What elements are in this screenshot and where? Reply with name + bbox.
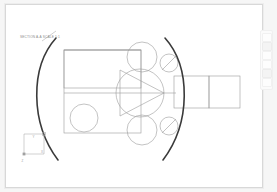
arc-group [37,38,185,160]
circle-group [70,42,178,145]
top-circle [127,42,157,72]
drawing-sheet[interactable]: SECTION A-A SCALE 1:1 Y X Z [5,4,263,188]
right-major-arc [163,38,184,160]
annotation-label: SECTION A-A SCALE 1:1 [20,36,60,39]
tool-trim[interactable] [262,78,272,87]
upper-band-rect [64,50,141,88]
top-small-circle-slash [162,56,176,70]
tool-arc[interactable] [262,60,272,69]
sketch-canvas[interactable] [6,5,262,187]
application-workspace: SECTION A-A SCALE 1:1 Y X Z [0,0,277,192]
axis-y-label: Y [33,136,35,139]
bottom-circle [127,115,157,145]
axis-x-label: X [41,151,43,154]
tool-circle[interactable] [262,51,272,60]
shaft-rect-right [209,76,240,108]
left-circle [70,104,98,132]
vertical-tool-palette[interactable] [260,30,273,90]
rectangle-group [64,50,240,133]
tool-select[interactable] [262,33,272,42]
outer-body-rect [64,50,141,133]
triad-origin-marker [23,153,26,156]
tool-dimension[interactable] [262,69,272,78]
tool-line[interactable] [262,42,272,51]
axis-z-label: Z [22,160,24,163]
bottom-small-circle-slash [162,119,176,133]
left-major-arc [37,38,58,160]
shaft-rect-left [174,76,209,108]
